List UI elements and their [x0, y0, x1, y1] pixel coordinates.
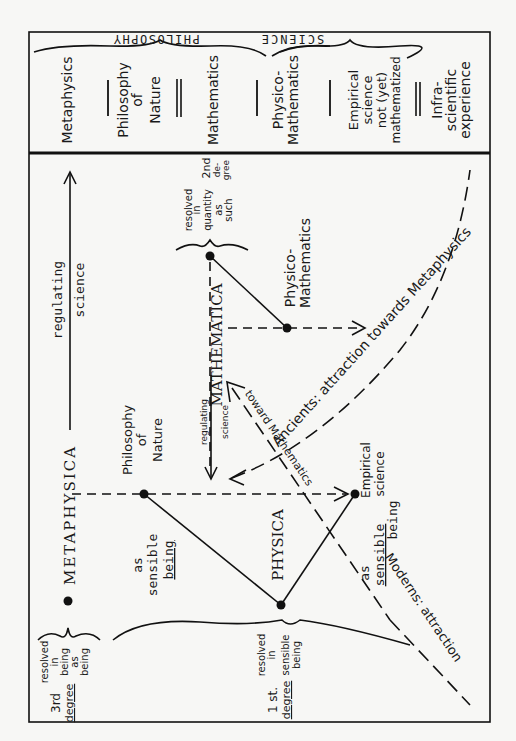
svg-text:Metaphysics: Metaphysics [59, 57, 75, 144]
philosophy-of-nature-label: Philosophy of Nature [120, 405, 165, 475]
first-degree-label: 1 st. degree [266, 681, 293, 720]
svg-text:not (yet): not (yet) [374, 72, 389, 128]
column-mathematics: Mathematics [205, 55, 221, 145]
svg-text:of: of [134, 433, 149, 446]
svg-text:being: being [79, 648, 90, 676]
svg-text:Mathematics: Mathematics [285, 55, 301, 145]
science-label: SCIENCE [260, 32, 325, 46]
second-degree-description: resolved in quantity as such [183, 189, 234, 232]
svg-text:Empirical: Empirical [359, 442, 373, 498]
svg-text:science: science [360, 76, 375, 125]
physica-label: PHYSICA [269, 509, 287, 581]
third-degree-brace [38, 628, 100, 640]
svg-text:experience: experience [457, 61, 473, 139]
svg-text:sensible: sensible [280, 635, 291, 676]
physico-mathematics-label: Physico- Mathematics [282, 218, 313, 308]
svg-text:Physico-: Physico- [270, 71, 286, 129]
moderns-label: Moderns: attraction [382, 550, 466, 664]
third-degree-label: 3rd degree [49, 684, 76, 723]
first-degree-description: resolved in sensible being [256, 634, 302, 677]
physica-node [277, 601, 286, 610]
svg-text:science: science [220, 405, 230, 439]
as-sensible-being-left: as sensible being [130, 534, 176, 597]
svg-text:3rd: 3rd [49, 693, 63, 713]
svg-text:science: science [373, 451, 387, 496]
svg-text:being: being [385, 500, 400, 539]
column-metaphysics: Metaphysics [59, 57, 75, 144]
metaphysica-node [64, 597, 73, 606]
svg-text:sensible: sensible [145, 534, 160, 597]
svg-text:regulating: regulating [50, 261, 65, 339]
metaphysica-label: METAPHYSICA [61, 445, 79, 585]
regulating-science-label: regulating science [50, 261, 87, 339]
svg-text:as: as [357, 565, 372, 581]
svg-text:Nature: Nature [150, 418, 165, 462]
column-empirical-science: Empirical science not (yet) mathematized [346, 56, 403, 143]
svg-text:degree: degree [280, 681, 293, 720]
svg-text:Empirical: Empirical [346, 70, 361, 130]
second-degree-brace [176, 240, 248, 250]
svg-text:as: as [130, 557, 145, 573]
svg-text:in: in [266, 650, 277, 659]
third-degree-description: resolved in being as being [39, 641, 90, 684]
arrow-head [227, 382, 245, 402]
svg-text:1 st.: 1 st. [266, 687, 280, 713]
svg-text:in: in [191, 205, 202, 214]
degrees-of-abstraction-diagram: PHILOSOPHY SCIENCE Metaphysics Philosoph… [0, 0, 516, 741]
moderns-attraction-line-end [390, 620, 470, 705]
svg-text:Nature: Nature [147, 76, 163, 123]
svg-text:gree: gree [221, 159, 231, 180]
column-infra-scientific: Infra- scientific experience [429, 61, 473, 139]
arrow-head [230, 470, 246, 485]
column-physico-mathematics: Physico- Mathematics [270, 55, 301, 145]
svg-text:Philosophy: Philosophy [120, 405, 135, 475]
column-philosophy-of-nature: Philosophy of Nature [115, 62, 163, 138]
svg-text:mathematized: mathematized [389, 56, 403, 143]
philosophy-label: PHILOSOPHY [112, 32, 199, 46]
outer-border [29, 32, 490, 722]
physica-empirical-line [281, 494, 355, 605]
svg-text:regulating: regulating [199, 399, 209, 445]
svg-text:science: science [72, 262, 87, 317]
empirical-science-label: Empirical science [359, 442, 387, 498]
svg-text:Physico-: Physico- [282, 249, 298, 307]
svg-text:being: being [291, 641, 302, 669]
svg-text:being: being [161, 540, 176, 579]
svg-text:Mathematics: Mathematics [297, 218, 313, 308]
svg-text:of: of [129, 92, 145, 107]
second-degree-label: 2nd de- gree [200, 158, 231, 181]
svg-text:such: such [223, 198, 234, 221]
svg-text:degree: degree [63, 684, 76, 723]
svg-text:quantity: quantity [202, 189, 213, 231]
svg-text:Mathematics: Mathematics [205, 55, 221, 145]
